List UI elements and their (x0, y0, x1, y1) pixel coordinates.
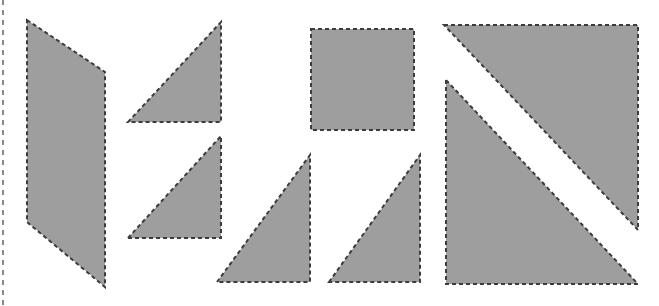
shape-canvas (0, 0, 659, 306)
shapes-svg (0, 0, 659, 306)
rectangle-top-center (311, 29, 414, 130)
